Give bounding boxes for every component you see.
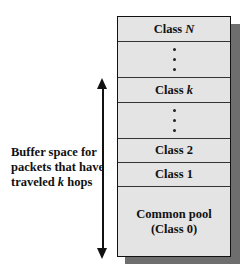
row-label-sub: (Class 0) [151,222,197,237]
row-label: Class [154,22,182,37]
dot-icon [173,68,176,71]
row-class-n: Class N [118,17,230,42]
dot-icon [173,109,176,112]
dot-icon [173,129,176,132]
ellipsis-upper [118,42,230,78]
dot-icon [173,58,176,61]
row-label-italic: N [185,22,194,37]
dot-icon [173,48,176,51]
row-label: Common pool [136,207,211,222]
row-label: Class [155,83,183,98]
row-class-k: Class k [118,78,230,103]
label-text: hops [64,175,92,189]
row-common-pool: Common pool (Class 0) [118,187,230,256]
ellipsis-lower [118,103,230,139]
row-label: Class 2 [155,143,193,158]
dot-icon [173,119,176,122]
label-line-3: traveled k hops [11,175,104,190]
row-class-1: Class 1 [118,163,230,187]
row-label: Class 1 [155,167,193,182]
row-class-2: Class 2 [118,139,230,163]
label-line-2: packets that have [11,160,104,175]
label-line-1: Buffer space for [11,145,104,160]
arrow-down-icon [97,248,107,259]
buffer-space-label: Buffer space for packets that have trave… [11,145,104,190]
label-text: traveled [11,175,58,189]
row-label-italic: k [187,83,193,98]
buffer-class-stack: Class N Class k Class 2 Class 1 Common p… [117,16,231,257]
